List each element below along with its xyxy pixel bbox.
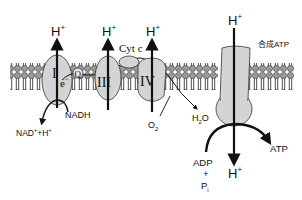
complex-iii-label: III xyxy=(97,75,111,90)
atp-synthesis: ADP + Pi ATP xyxy=(193,124,288,193)
q-label: Q xyxy=(75,69,82,79)
atp-label: ATP xyxy=(270,143,288,154)
oxygen-reduction: O2 H2O xyxy=(148,96,209,132)
complex-iii-proton: H+ xyxy=(102,23,116,39)
atp-synthase: H+ 合成ATP H+ xyxy=(216,12,289,181)
pi-label: Pi xyxy=(201,180,209,193)
adp-label: ADP xyxy=(193,157,213,168)
atp-synthase-proton-out: H+ xyxy=(228,165,242,181)
complex-i: I H+ xyxy=(42,23,72,108)
nadh-oxidation: NADH NAD++H+ xyxy=(16,100,91,138)
atp-synthase-label: 合成ATP xyxy=(258,39,289,49)
etc-diagram: I H+ e− Q III H+ Cyt c IV H+ O2 H2O NADH xyxy=(0,0,302,200)
nadh-label: NADH xyxy=(65,110,91,120)
atp-synthase-proton-in: H+ xyxy=(228,12,242,28)
complex-iv-proton: H+ xyxy=(146,23,160,39)
complex-iv: IV H+ xyxy=(138,23,166,112)
o2-label: O2 xyxy=(148,120,159,132)
ubiquinone-q: Q xyxy=(73,68,83,79)
plus-sign: + xyxy=(203,168,209,179)
complex-i-proton: H+ xyxy=(51,23,65,39)
complex-i-label: I xyxy=(52,66,57,81)
h2o-label: H2O xyxy=(192,113,209,125)
complex-iv-label: IV xyxy=(140,74,155,89)
nad-label: NAD++H+ xyxy=(16,127,52,138)
cyt-c-label: Cyt c xyxy=(119,42,143,54)
complex-iii: III H+ xyxy=(95,23,121,110)
